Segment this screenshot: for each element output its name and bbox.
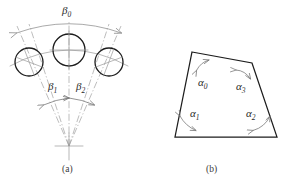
alpha-0-label: α0 [198,76,208,91]
technical-figure: β0 β1 β2 (a) α0 [0,0,285,182]
figure-root: β0 β1 β2 (a) α0 [0,0,285,182]
alpha-1-label: α1 [190,107,200,122]
radial-line-right-inner [69,24,109,146]
alpha-3-angle-arc [236,70,251,79]
panel-b-group: α0 α3 α1 α2 (b) [175,52,277,175]
circle-middle-crosshair [50,31,88,69]
beta-1-label: β1 [47,80,57,95]
quadrilateral-outline [175,52,277,137]
alpha-2-angle-arc [253,116,270,131]
circle-right [95,48,124,76]
beta-1-angle-arc [44,98,70,105]
caption-panel-a: (a) [62,164,73,175]
alpha-0-angle-arc [197,60,210,71]
alpha-2-label: α2 [246,107,256,122]
circle-middle [50,31,88,69]
circle-left [15,48,44,76]
apex-center-mark [55,133,83,160]
panel-a-group: β0 β1 β2 (a) [10,4,128,175]
beta-2-label: β2 [75,80,85,95]
radial-line-left-outer [17,26,69,146]
caption-panel-b: (b) [206,164,217,175]
beta-2-angle-arc [69,98,95,105]
beta-0-label: β0 [61,4,71,19]
alpha-3-label: α3 [236,80,246,95]
